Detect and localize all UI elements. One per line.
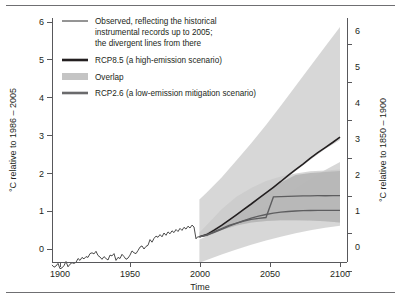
left-tick-label-6: 6: [39, 17, 44, 27]
legend-item-overlap[interactable]: Overlap: [62, 73, 124, 82]
legend-observed-line-1: Observed, reflecting the historical: [95, 17, 217, 26]
right-axis: 0 1 2 3 4 5 6 °C relative to 1850 – 1900: [347, 18, 388, 272]
left-tick-label-0: 0: [39, 244, 44, 254]
right-axis-title: °C relative to 1850 – 1900: [378, 98, 388, 202]
chart-canvas: 0 1 2 3 4 5 6 °C relative to 1986 – 2005…: [0, 0, 401, 302]
top-divider-rule: [6, 5, 395, 6]
left-axis-title: °C relative to 1986 – 2005: [8, 88, 18, 192]
gray-block-swatch: [62, 73, 88, 80]
legend-observed-line-3: the divergent lines from there: [95, 39, 201, 48]
left-tick-label-4: 4: [39, 93, 44, 103]
left-tick-label-2: 2: [39, 169, 44, 179]
legend-item-rcp26[interactable]: RCP2.6 (a low-emission mitigation scenar…: [62, 89, 256, 98]
legend-rcp26-label: RCP2.6 (a low-emission mitigation scenar…: [95, 89, 256, 98]
legend-overlap-label: Overlap: [95, 73, 124, 82]
left-tick-label-3: 3: [39, 131, 44, 141]
right-tick-label-6: 6: [355, 26, 360, 36]
x-tick-label-1950: 1950: [120, 269, 140, 279]
x-tick-label-1900: 1900: [50, 269, 70, 279]
right-tick-label-0: 0: [355, 242, 360, 252]
bottom-axis-ticks: [60, 262, 340, 267]
legend-rcp85-label: RCP8.5 (a high-emission scenario): [95, 56, 222, 65]
x-tick-label-2000: 2000: [190, 269, 210, 279]
right-tick-label-1: 1: [355, 206, 360, 216]
right-tick-label-5: 5: [355, 62, 360, 72]
legend-item-observed[interactable]: Observed, reflecting the historical inst…: [62, 17, 217, 48]
climate-projection-figure: 0 1 2 3 4 5 6 °C relative to 1986 – 2005…: [0, 0, 401, 302]
bottom-axis: 1900 1950 2000 2050 2100 Time: [50, 262, 350, 292]
chart-legend: Observed, reflecting the historical inst…: [62, 17, 256, 98]
right-axis-ticks: [347, 45, 352, 272]
left-tick-label-1: 1: [39, 206, 44, 216]
x-tick-label-2050: 2050: [260, 269, 280, 279]
right-tick-label-3: 3: [355, 134, 360, 144]
legend-observed-line-2: instrumental records up to 2005;: [95, 28, 212, 37]
x-tick-label-2100: 2100: [330, 269, 350, 279]
left-tick-label-5: 5: [39, 55, 44, 65]
bottom-divider-rule: [6, 292, 395, 293]
right-tick-label-2: 2: [355, 170, 360, 180]
legend-item-rcp85[interactable]: RCP8.5 (a high-emission scenario): [62, 56, 222, 65]
right-tick-label-4: 4: [355, 98, 360, 108]
left-axis: 0 1 2 3 4 5 6 °C relative to 1986 – 2005: [8, 17, 52, 262]
left-axis-ticks: [47, 22, 52, 249]
x-axis-title: Time: [190, 282, 210, 292]
